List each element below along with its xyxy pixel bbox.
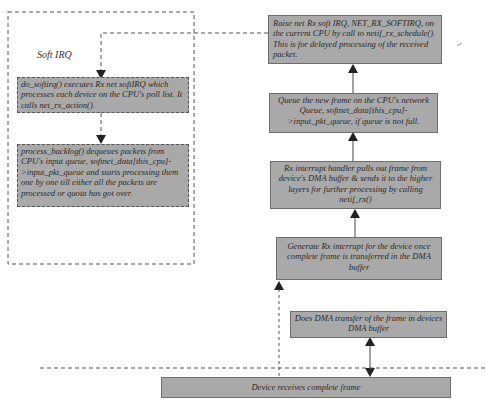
arrowhead-down-icon — [365, 368, 375, 377]
arrowhead-up-icon — [348, 132, 358, 141]
node-do-softirq: do_softirq() executes Rx net softIRQ whi… — [17, 77, 189, 113]
node-device-receives: Device receives complete frame — [161, 377, 451, 398]
arrowhead-down-icon — [96, 135, 106, 144]
arrowhead-up-icon — [348, 64, 358, 73]
node-raise-softirq: Raise net Rx soft IRQ, NET_RX_SOFTIRQ, o… — [268, 15, 442, 64]
node-generate-interrupt: Generate Rx interrupt for the device onc… — [276, 237, 442, 280]
arrowhead-up-icon — [274, 281, 284, 290]
diagram-canvas: Soft IRQ do_softirq() executes Rx net so… — [0, 0, 486, 405]
node-queue-frame: Queue the new frame on the CPU's network… — [269, 93, 438, 133]
node-dma-transfer: Does DMA transfer of the frame in device… — [290, 311, 447, 338]
node-process-backlog: process_backlog() dequeues packets from … — [17, 144, 189, 207]
softirq-group-label: Soft IRQ — [37, 49, 72, 60]
node-rx-handler: Rx interrupt handler pulls out frame fro… — [270, 161, 441, 209]
arrowhead-up-icon — [365, 337, 375, 346]
arrowhead-up-icon — [350, 209, 360, 218]
edge-raise-to-dosoftirq — [101, 33, 268, 72]
stray-mark — [457, 43, 462, 46]
